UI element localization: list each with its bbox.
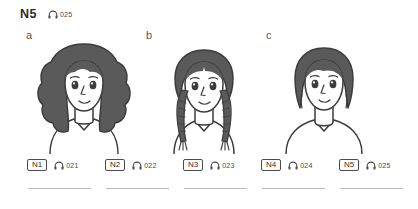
track-number-n4: 024 [300,162,312,169]
headphones-icon [48,10,58,19]
answer-line-n2[interactable] [106,188,169,189]
question-item-n2: N2 022 [105,157,183,173]
question-item-n3: N3 023 [183,157,261,173]
headphones-icon [366,161,376,170]
question-number-box-n1[interactable]: N1 [27,159,47,171]
question-items-row: N1 021 N2 [0,157,418,205]
track-number-n3: 023 [222,162,234,169]
answer-line-n5[interactable] [340,188,403,189]
page-header: N5 025 [20,7,72,21]
track-number-n2: 022 [144,162,156,169]
track-number-n5: 025 [378,162,390,169]
illustration-row: a [0,26,418,154]
audio-reference-n1[interactable]: 021 [54,161,78,170]
audio-reference-n5[interactable]: 025 [366,161,390,170]
audio-reference-n3[interactable]: 023 [210,161,234,170]
question-item-n4-head: N4 024 [261,157,339,173]
headphones-icon [288,161,298,170]
woman-curly-long-hair-illustration [28,38,140,158]
answer-line-n3[interactable] [184,188,247,189]
header-audio-reference[interactable]: 025 [48,10,72,19]
answer-line-n4[interactable] [262,188,325,189]
header-track-number: 025 [60,11,72,18]
question-item-n2-head: N2 022 [105,157,183,173]
question-number-box-n3[interactable]: N3 [183,159,203,171]
question-item-n4: N4 024 [261,157,339,173]
headphones-icon [132,161,142,170]
answer-line-n1[interactable] [28,188,91,189]
headphones-icon [210,161,220,170]
woman-braided-pigtails-illustration [148,38,260,158]
question-item-n1-head: N1 021 [27,157,105,173]
question-item-n5-head: N5 025 [339,157,417,173]
headphones-icon [54,161,64,170]
track-number-n1: 021 [66,162,78,169]
figure-option-c[interactable]: c [258,26,388,154]
figure-option-b[interactable]: b [138,26,268,154]
question-item-n3-head: N3 023 [183,157,261,173]
question-number-box-n4[interactable]: N4 [261,159,281,171]
page-title: N5 [20,7,37,21]
question-number-box-n2[interactable]: N2 [105,159,125,171]
question-number-box-n5[interactable]: N5 [339,159,359,171]
audio-reference-n2[interactable]: 022 [132,161,156,170]
question-item-n5: N5 025 [339,157,417,173]
audio-reference-n4[interactable]: 024 [288,161,312,170]
woman-short-bob-illustration [268,38,380,158]
question-item-n1: N1 021 [27,157,105,173]
figure-option-a[interactable]: a [18,26,148,154]
